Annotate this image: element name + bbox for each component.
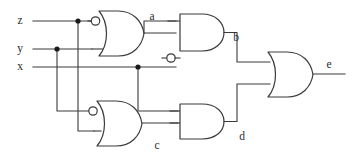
input-label-y: y [17, 42, 23, 55]
signal-label-c: c [154, 139, 159, 151]
signal-label-b: b [233, 31, 239, 43]
wire-gate-b-output-to-e [224, 33, 270, 63]
junction-dot-y [54, 46, 59, 51]
signal-label-d: d [239, 130, 245, 142]
gate-e-or-body [268, 52, 313, 97]
wire-gate-d-output-to-e [224, 84, 270, 122]
gate-c-or-body [97, 101, 142, 146]
inversion-bubble-gate-b-bottom [167, 54, 175, 62]
signal-label-e: e [326, 58, 331, 70]
gate-a-or-body [99, 11, 144, 56]
input-label-x: x [17, 60, 23, 72]
inversion-bubble-gate-a-top [91, 17, 99, 25]
wire-branch-x-down [138, 67, 178, 111]
input-label-z: z [17, 14, 22, 26]
junction-dot-z [75, 18, 80, 23]
logic-circuit-diagram: z y x a b c d e [0, 0, 358, 163]
inversion-bubble-gate-c-top [89, 107, 97, 115]
junction-dot-x [135, 64, 140, 69]
signal-label-a: a [149, 10, 154, 22]
wire-branch-y-down [57, 49, 94, 111]
gate-b-and-body [180, 14, 224, 51]
wire-gate-a-output [144, 21, 176, 33]
gate-d-and-body [180, 104, 224, 139]
